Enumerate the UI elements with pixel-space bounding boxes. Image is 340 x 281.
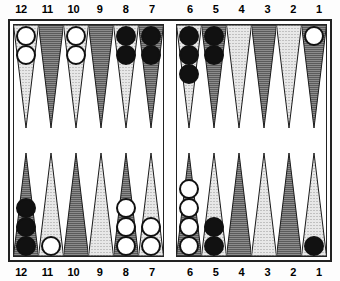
checker-stack[interactable] [203, 26, 225, 64]
point-10[interactable] [64, 25, 89, 141]
point-6[interactable] [177, 141, 202, 257]
checker-stack[interactable] [65, 26, 87, 64]
point-number-10: 10 [60, 267, 86, 278]
point-8[interactable] [113, 25, 138, 141]
board-right-side [176, 24, 327, 257]
black-checker[interactable] [141, 26, 161, 46]
point-number-7: 7 [139, 267, 165, 278]
point-number-1: 1 [306, 267, 332, 278]
point-10[interactable] [64, 141, 89, 257]
backgammon-board: 121110987 654321 121110987 654321 [0, 0, 340, 281]
black-checker[interactable] [204, 236, 224, 256]
black-checker[interactable] [16, 236, 36, 256]
checker-stack[interactable] [178, 179, 200, 255]
black-checker[interactable] [204, 45, 224, 65]
point-1[interactable] [301, 141, 326, 257]
checker-stack[interactable] [15, 26, 37, 64]
black-checker[interactable] [179, 45, 199, 65]
point-number-1: 1 [306, 4, 332, 15]
point-1[interactable] [301, 25, 326, 141]
bar-label-spacer-top [165, 0, 177, 18]
point-11[interactable] [39, 25, 64, 141]
point-labels-bottom: 121110987 654321 [8, 263, 332, 281]
point-number-5: 5 [203, 4, 229, 15]
point-number-11: 11 [34, 4, 60, 15]
quadrant-bottom-right [177, 141, 326, 257]
board-bar[interactable] [164, 24, 176, 257]
point-number-7: 7 [139, 4, 165, 15]
board-left-side [13, 24, 164, 257]
white-checker[interactable] [116, 217, 136, 237]
white-checker[interactable] [179, 198, 199, 218]
white-checker[interactable] [304, 26, 324, 46]
black-checker[interactable] [16, 198, 36, 218]
point-2[interactable] [276, 25, 301, 141]
quadrant-top-left [14, 25, 163, 141]
point-11[interactable] [39, 141, 64, 257]
checker-stack[interactable] [140, 217, 162, 255]
black-checker[interactable] [179, 64, 199, 84]
point-4[interactable] [227, 141, 252, 257]
checker-stack[interactable] [15, 198, 37, 255]
bar-label-spacer-bottom [165, 263, 177, 281]
point-2[interactable] [276, 141, 301, 257]
point-3[interactable] [251, 25, 276, 141]
white-checker[interactable] [16, 45, 36, 65]
point-8[interactable] [113, 141, 138, 257]
point-6[interactable] [177, 25, 202, 141]
point-9[interactable] [88, 141, 113, 257]
checker-stack[interactable] [303, 26, 325, 45]
point-9[interactable] [88, 25, 113, 141]
white-checker[interactable] [179, 179, 199, 199]
white-checker[interactable] [41, 236, 61, 256]
white-checker[interactable] [66, 45, 86, 65]
point-number-10: 10 [60, 4, 86, 15]
checker-stack[interactable] [203, 217, 225, 255]
checker-stack[interactable] [40, 236, 62, 255]
checker-stack[interactable] [115, 198, 137, 255]
black-checker[interactable] [16, 217, 36, 237]
board-inner [13, 24, 327, 257]
board-frame [8, 19, 332, 262]
white-checker[interactable] [141, 236, 161, 256]
point-number-12: 12 [8, 4, 34, 15]
black-checker[interactable] [204, 26, 224, 46]
quadrant-top-right [177, 25, 326, 141]
point-number-2: 2 [280, 4, 306, 15]
checker-stack[interactable] [115, 26, 137, 64]
point-number-2: 2 [280, 267, 306, 278]
white-checker[interactable] [179, 236, 199, 256]
checker-stack[interactable] [178, 26, 200, 83]
point-5[interactable] [202, 141, 227, 257]
point-number-11: 11 [34, 267, 60, 278]
white-checker[interactable] [16, 26, 36, 46]
point-12[interactable] [14, 25, 39, 141]
point-number-12: 12 [8, 267, 34, 278]
point-7[interactable] [138, 25, 163, 141]
black-checker[interactable] [116, 26, 136, 46]
white-checker[interactable] [66, 26, 86, 46]
black-checker[interactable] [304, 236, 324, 256]
point-labels-top: 121110987 654321 [8, 0, 332, 18]
checker-stack[interactable] [303, 236, 325, 255]
quadrant-bottom-left [14, 141, 163, 257]
point-5[interactable] [202, 25, 227, 141]
point-4[interactable] [227, 25, 252, 141]
white-checker[interactable] [141, 217, 161, 237]
point-labels-bottom-right: 654321 [177, 263, 332, 281]
black-checker[interactable] [116, 45, 136, 65]
checker-stack[interactable] [140, 26, 162, 64]
point-12[interactable] [14, 141, 39, 257]
black-checker[interactable] [204, 217, 224, 237]
point-number-6: 6 [177, 4, 203, 15]
point-7[interactable] [138, 141, 163, 257]
point-labels-top-left: 121110987 [8, 0, 165, 18]
white-checker[interactable] [116, 236, 136, 256]
black-checker[interactable] [179, 26, 199, 46]
black-checker[interactable] [141, 45, 161, 65]
point-3[interactable] [251, 141, 276, 257]
white-checker[interactable] [179, 217, 199, 237]
point-number-9: 9 [87, 267, 113, 278]
white-checker[interactable] [116, 198, 136, 218]
point-number-4: 4 [229, 4, 255, 15]
